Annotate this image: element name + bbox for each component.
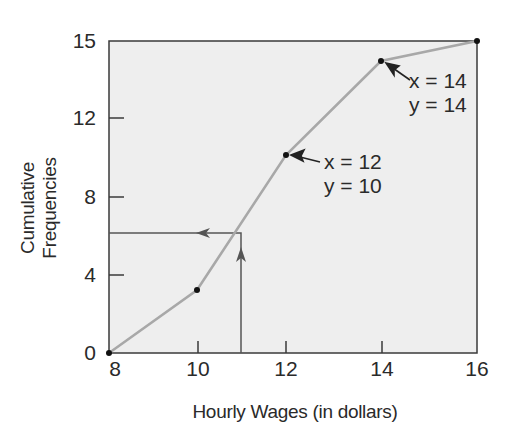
- x-tick-label: 16: [457, 357, 497, 381]
- y-tick-label: 15: [56, 29, 96, 53]
- annotation-y-value: y = 10: [324, 174, 382, 198]
- ogive-chart: Cumulative Frequencies 15 12 8 4 0 8 10 …: [0, 0, 510, 443]
- annotation-y-value: y = 14: [409, 93, 467, 117]
- plot-area: [0, 0, 510, 443]
- y-tick-label: 12: [56, 106, 96, 130]
- annotation-x14: x = 14 y = 14: [409, 69, 467, 117]
- annotation-x-value: x = 12: [324, 150, 382, 174]
- y-tick-label: 8: [56, 185, 96, 209]
- y-tick-label: 0: [56, 341, 96, 365]
- x-tick-label: 14: [362, 357, 402, 381]
- x-tick-label: 10: [178, 357, 218, 381]
- x-axis-title: Hourly Wages (in dollars): [160, 401, 430, 423]
- x-tick-label: 12: [266, 357, 306, 381]
- x-tick-label: 8: [95, 357, 135, 381]
- y-axis-title: Cumulative Frequencies: [17, 113, 61, 303]
- y-tick-label: 4: [56, 263, 96, 287]
- annotation-x12: x = 12 y = 10: [324, 150, 382, 198]
- annotation-x-value: x = 14: [409, 69, 467, 93]
